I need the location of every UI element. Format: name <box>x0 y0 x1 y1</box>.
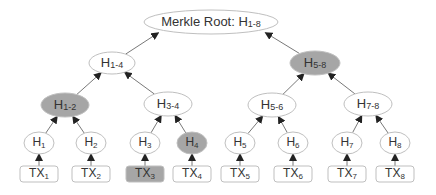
node-h3: H3 <box>130 132 160 154</box>
node-h8: H8 <box>380 132 410 154</box>
transaction-tx3: TX3 <box>126 166 164 182</box>
node-h7: H7 <box>332 132 362 154</box>
node-h5-6: H5-6 <box>248 93 296 117</box>
transaction-tx7: TX7 <box>328 166 366 182</box>
arrow-h1-to-parent <box>46 116 58 133</box>
node-h4: H4 <box>177 132 207 154</box>
node-h1-4: H1-4 <box>89 52 135 74</box>
arrow-h7-8-to-h5-8 <box>328 73 355 94</box>
arrow-h1-4-to-root <box>126 33 159 54</box>
arrow-h8-to-parent <box>376 115 388 133</box>
node-h3-4: H3-4 <box>144 92 192 116</box>
arrow-h3-4-to-h1-4 <box>125 72 155 94</box>
node-h6: H6 <box>278 132 308 154</box>
arrow-h6-to-parent <box>278 117 287 133</box>
arrow-h1-2-to-h1-4 <box>77 73 101 95</box>
node-h2: H2 <box>76 132 106 154</box>
arrow-h4-to-parent <box>175 115 186 133</box>
node-h5: H5 <box>225 132 255 154</box>
merkle-tree-diagram: Merkle Root: H1-8H1-4H5-8H1-2H3-4H5-6H7-… <box>0 0 436 195</box>
arrow-h5-to-parent <box>248 116 263 134</box>
nodes: Merkle Root: H1-8H1-4H5-8H1-2H3-4H5-6H7-… <box>20 10 414 182</box>
arrow-h5-6-to-h5-8 <box>283 74 304 95</box>
node-h1: H1 <box>24 132 54 154</box>
transaction-tx8: TX8 <box>376 166 414 182</box>
arrow-h7-to-parent <box>353 116 362 133</box>
transaction-tx2: TX2 <box>72 166 110 182</box>
node-h7-8: H7-8 <box>344 92 392 116</box>
arrow-h5-8-to-root <box>265 33 299 54</box>
arrow-h3-to-parent <box>151 116 161 133</box>
arrow-h2-to-parent <box>73 116 85 133</box>
transaction-tx6: TX6 <box>274 166 312 182</box>
transaction-tx4: TX4 <box>173 166 211 182</box>
node-h5-8: H5-8 <box>290 51 340 75</box>
transaction-tx1: TX1 <box>20 166 58 182</box>
transaction-tx5: TX5 <box>221 166 259 182</box>
node-root: Merkle Root: H1-8 <box>144 10 278 34</box>
node-h1-2: H1-2 <box>41 93 89 117</box>
node-root-label: Merkle Root: H1-8 <box>161 14 261 30</box>
